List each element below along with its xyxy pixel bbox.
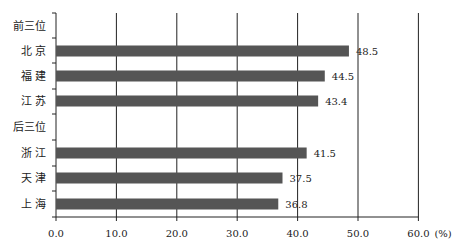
bar [56,71,325,82]
category-label: 北 京 [21,44,47,58]
category-label: 后三位 [13,120,46,134]
category-label: 福 建 [21,69,47,83]
value-label: 36.8 [285,199,307,210]
category-label: 江 苏 [21,95,47,108]
x-tick-label: 40.0 [286,228,308,239]
category-label: 前三位 [13,19,46,33]
x-tick-label: 50.0 [347,228,369,239]
value-label: 41.5 [314,148,336,159]
bar-chart: 0.010.020.030.040.050.060.0(%)前三位北 京48.5… [0,0,465,252]
chart-canvas: 0.010.020.030.040.050.060.0(%)前三位北 京48.5… [0,0,465,252]
category-label: 上 海 [21,197,47,211]
x-tick-label: 60.0 [407,228,429,239]
x-tick-label: 30.0 [226,228,248,239]
x-unit-label: (%) [434,228,451,239]
value-label: 37.5 [290,173,312,184]
category-label: 浙 江 [21,147,47,160]
value-label: 48.5 [356,46,378,57]
category-label: 天 津 [21,172,47,185]
value-label: 43.4 [325,96,347,107]
x-tick-label: 20.0 [166,228,188,239]
bar [56,173,283,184]
x-tick-label: 0.0 [48,228,64,239]
x-tick-label: 10.0 [105,228,127,239]
bar [56,148,307,159]
bar [56,46,349,57]
bar [56,199,278,210]
value-label: 44.5 [332,71,354,82]
bar [56,96,318,107]
